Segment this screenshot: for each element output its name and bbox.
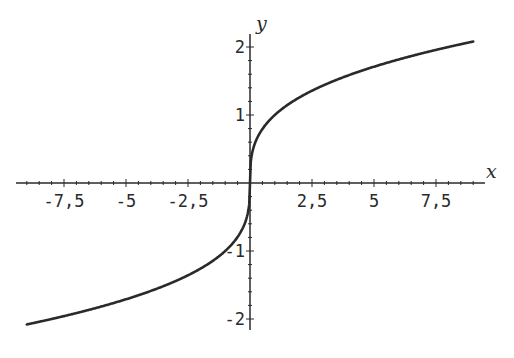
y-axis-label: y xyxy=(255,12,267,34)
x-tick-label: -5 xyxy=(116,191,136,211)
chart: -7,5-5-2,52,557,521-1-2 x y xyxy=(0,0,514,358)
x-tick-label: 7,5 xyxy=(421,191,452,211)
x-axis-label: x xyxy=(486,160,497,182)
x-tick-label: 5 xyxy=(369,191,379,211)
x-tick-label: -7,5 xyxy=(44,191,85,211)
y-tick-label: 1 xyxy=(235,105,245,125)
y-tick-label: -2 xyxy=(225,309,245,329)
y-tick-label: -1 xyxy=(225,241,245,261)
x-tick-label: 2,5 xyxy=(297,191,328,211)
y-tick-label: 2 xyxy=(235,37,245,57)
x-tick-label: -2,5 xyxy=(168,191,209,211)
